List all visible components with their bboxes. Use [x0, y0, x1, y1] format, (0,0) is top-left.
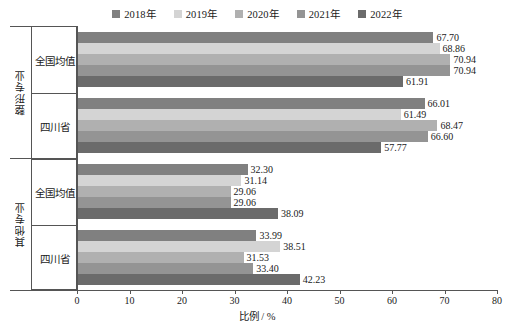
- category-group-separator: [10, 290, 77, 291]
- bar[interactable]: [78, 54, 450, 65]
- category-label: 全国均值: [32, 159, 78, 225]
- plot-area: 67.7068.8670.9470.9461.9166.0161.4968.47…: [77, 26, 498, 290]
- category-label: 四川省: [32, 225, 78, 291]
- bar-value-label: 70.94: [453, 65, 476, 76]
- x-axis-tick: [497, 290, 498, 294]
- category-label: 四川省: [32, 93, 78, 159]
- bar[interactable]: [78, 208, 278, 219]
- bar-value-label: 70.94: [453, 54, 476, 65]
- category-group-separator: [10, 158, 77, 159]
- bar-value-label: 66.60: [431, 131, 454, 142]
- bar-value-label: 61.49: [404, 109, 427, 120]
- legend-swatch-icon: [235, 10, 243, 18]
- legend-label: 2019年: [186, 6, 218, 21]
- legend-label: 2022年: [370, 6, 402, 21]
- x-axis-tick-label: 0: [75, 295, 80, 306]
- legend-swatch-icon: [174, 10, 182, 18]
- legend-label: 2021年: [309, 6, 341, 21]
- bar-value-label: 33.40: [256, 263, 279, 274]
- x-axis-title: 比例 / %: [0, 308, 514, 323]
- legend-label: 2018年: [124, 6, 156, 21]
- bar[interactable]: [78, 76, 403, 87]
- bar-value-label: 66.01: [428, 98, 451, 109]
- legend-item[interactable]: 2019年: [174, 6, 218, 21]
- category-group-label: 其他专业: [10, 158, 31, 290]
- bar[interactable]: [78, 43, 440, 54]
- legend-item[interactable]: 2020年: [235, 6, 279, 21]
- legend-swatch-icon: [358, 10, 366, 18]
- legend-swatch-icon: [297, 10, 305, 18]
- bar-value-label: 68.86: [443, 43, 466, 54]
- bar[interactable]: [78, 98, 425, 109]
- legend-item[interactable]: 2022年: [358, 6, 402, 21]
- bar[interactable]: [78, 32, 433, 43]
- bar[interactable]: [78, 164, 248, 175]
- chart-container: 2018年2019年2020年2021年2022年 67.7068.8670.9…: [0, 0, 514, 328]
- legend-swatch-icon: [112, 10, 120, 18]
- category-divider: [32, 225, 76, 226]
- x-axis-tick: [182, 290, 183, 294]
- category-divider: [32, 93, 76, 94]
- x-axis-tick-label: 40: [282, 295, 292, 306]
- category-group-label: 整形专业: [10, 26, 31, 158]
- legend-item[interactable]: 2021年: [297, 6, 341, 21]
- bar[interactable]: [78, 131, 428, 142]
- bar[interactable]: [78, 197, 231, 208]
- bar[interactable]: [78, 65, 450, 76]
- x-axis-tick-label: 70: [440, 295, 450, 306]
- bar[interactable]: [78, 142, 381, 153]
- legend-label: 2020年: [247, 6, 279, 21]
- x-axis-tick-label: 20: [177, 295, 187, 306]
- bar[interactable]: [78, 252, 244, 263]
- x-axis-tick: [130, 290, 131, 294]
- bar-value-label: 38.51: [283, 241, 306, 252]
- legend-item[interactable]: 2018年: [112, 6, 156, 21]
- bar-value-label: 68.47: [440, 120, 463, 131]
- x-axis-tick-label: 30: [230, 295, 240, 306]
- bar-value-label: 42.23: [303, 274, 326, 285]
- bar[interactable]: [78, 230, 256, 241]
- chart-legend: 2018年2019年2020年2021年2022年: [0, 6, 514, 21]
- bar[interactable]: [78, 120, 437, 131]
- bar-value-label: 61.91: [406, 76, 429, 87]
- bar-value-label: 67.70: [436, 32, 459, 43]
- x-axis-tick: [340, 290, 341, 294]
- x-axis-tick-label: 80: [492, 295, 502, 306]
- category-label: 全国均值: [32, 27, 78, 93]
- bar-value-label: 57.77: [384, 142, 407, 153]
- bar[interactable]: [78, 186, 231, 197]
- category-group-separator: [10, 26, 77, 27]
- bar-value-label: 29.06: [234, 197, 257, 208]
- category-divider: [32, 159, 76, 160]
- x-axis-tick: [445, 290, 446, 294]
- bar-value-label: 33.99: [259, 230, 282, 241]
- bar-value-label: 32.30: [251, 164, 274, 175]
- x-axis-tick: [235, 290, 236, 294]
- x-axis-tick-label: 50: [335, 295, 345, 306]
- x-axis-tick: [392, 290, 393, 294]
- bar[interactable]: [78, 109, 401, 120]
- bar-value-label: 29.06: [234, 186, 257, 197]
- bar[interactable]: [78, 175, 241, 186]
- x-axis-tick: [287, 290, 288, 294]
- bar[interactable]: [78, 263, 253, 274]
- bar-value-label: 31.14: [244, 175, 267, 186]
- bar-value-label: 31.53: [247, 252, 270, 263]
- bar-value-label: 38.09: [281, 208, 304, 219]
- bar[interactable]: [78, 274, 300, 285]
- x-axis-tick-label: 10: [125, 295, 135, 306]
- bar[interactable]: [78, 241, 280, 252]
- x-axis-tick-label: 60: [387, 295, 397, 306]
